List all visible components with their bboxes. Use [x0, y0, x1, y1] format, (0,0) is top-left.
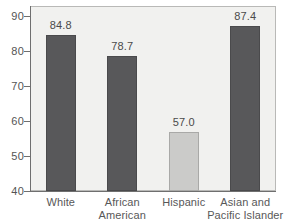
category-label-line2: Pacific Islander	[200, 209, 284, 220]
bar	[169, 132, 199, 191]
bar-value-label: 87.4	[215, 11, 275, 22]
y-axis-tick-label: 70	[0, 81, 24, 92]
y-axis-tick-label: 90	[0, 11, 24, 22]
y-axis-tick-label: 50	[0, 151, 24, 162]
x-axis-category-label: Asian andPacific Islander	[200, 196, 284, 219]
bar	[46, 35, 76, 191]
x-axis-line	[30, 191, 276, 192]
category-label-line1: Hispanic	[162, 196, 205, 208]
category-label-line1: Asian and	[220, 196, 270, 208]
bar-value-label: 84.8	[31, 20, 91, 31]
bar	[107, 56, 137, 191]
category-label-line1: White	[46, 196, 75, 208]
y-axis-tick-label: 60	[0, 116, 24, 127]
bar-value-label: 78.7	[92, 41, 152, 52]
y-axis-tick-label: 80	[0, 46, 24, 57]
y-axis-line	[30, 6, 31, 192]
bar-value-label: 57.0	[154, 117, 214, 128]
bar-chart: 405060708090 84.878.757.087.4 WhiteAfric…	[0, 0, 284, 219]
bar	[230, 26, 260, 191]
category-label-line1: African	[105, 196, 140, 208]
category-label-line2: American	[77, 209, 167, 220]
